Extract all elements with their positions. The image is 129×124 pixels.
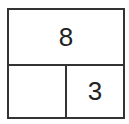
part-right-value: 3 — [88, 76, 102, 107]
whole-cell: 8 — [9, 10, 123, 66]
number-bond-diagram: 8 3 — [7, 8, 125, 119]
whole-value: 8 — [59, 22, 73, 53]
part-cell-right: 3 — [67, 66, 123, 117]
part-cell-left — [9, 66, 67, 117]
